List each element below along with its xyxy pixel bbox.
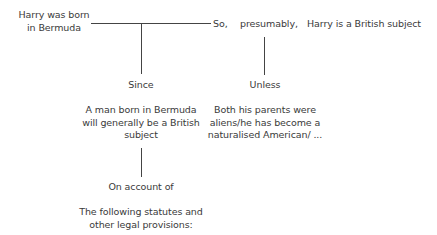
so-label: So,	[213, 18, 228, 31]
since-label: Since	[111, 79, 171, 92]
datum-claim-connector	[91, 23, 211, 24]
rebuttal-text: Both his parents were aliens/he has beco…	[205, 104, 325, 142]
warrant-connector	[141, 24, 142, 74]
backing-connector	[141, 148, 142, 177]
claim-text: Harry is a British subject	[307, 18, 421, 31]
warrant-text: A man born in Bermuda will generally be …	[76, 104, 206, 142]
qualifier-text: presumably,	[240, 18, 298, 31]
backing-text: The following statutes and other legal p…	[71, 206, 211, 231]
rebuttal-connector	[264, 37, 265, 75]
unless-label: Unless	[235, 79, 295, 92]
on-account-of-label: On account of	[86, 181, 196, 194]
datum-text: Harry was born in Bermuda	[18, 9, 90, 34]
